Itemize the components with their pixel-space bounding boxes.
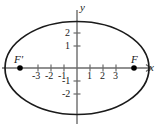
x-tick-label-neg3: -3 <box>32 71 40 81</box>
right-focus-label: F <box>131 54 138 65</box>
right-focus-point <box>131 65 137 71</box>
left-focus-point <box>17 65 23 71</box>
ellipse-figure: y x -3 -2 -1 1 2 3 2 1 -1 -2 F' F <box>0 0 156 129</box>
x-tick-label-2: 2 <box>100 71 105 81</box>
y-tick-label-1: 1 <box>65 41 70 51</box>
x-tick-label-1: 1 <box>87 71 92 81</box>
y-tick-label-2: 2 <box>65 28 70 38</box>
x-tick-label-neg2: -2 <box>45 71 53 81</box>
x-tick-label-3: 3 <box>113 71 118 81</box>
y-axis-label: y <box>80 2 85 13</box>
left-focus-label: F' <box>14 54 23 65</box>
y-tick-label-neg1: -1 <box>62 76 70 86</box>
y-tick-label-neg2: -2 <box>62 89 70 99</box>
x-axis-label: x <box>149 62 154 73</box>
